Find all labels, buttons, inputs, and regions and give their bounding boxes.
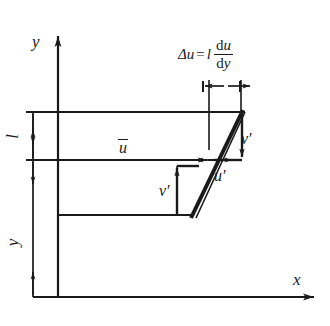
velocity-profile-group — [191, 110, 245, 218]
prime-glyph-2: ′ — [166, 182, 170, 199]
formula-delta: Δ — [178, 46, 187, 63]
velocity-profile-line-thin — [196, 112, 245, 218]
u-prime-symbol: u — [214, 167, 222, 184]
formula-lhs-var: u — [187, 46, 195, 63]
x-axis-label: x — [293, 271, 301, 288]
v-prime-upper-label: v′ — [241, 131, 252, 147]
formula-den-var: y — [224, 55, 231, 71]
profile-lines-group — [33, 112, 245, 215]
axis-group — [33, 36, 314, 297]
formula-numerator: du — [214, 38, 233, 55]
velocity-profile-line — [191, 110, 243, 218]
formula-mixing-length: l — [207, 46, 211, 63]
dimension-group — [26, 112, 46, 297]
u-prime-label: u′ — [214, 168, 226, 184]
formula-denominator: dy — [214, 55, 232, 72]
formula-equals: = — [196, 46, 204, 63]
mean-velocity-symbol: u — [119, 140, 127, 156]
y-axis-label: y — [32, 33, 40, 50]
formula-fraction: du dy — [214, 38, 233, 72]
prime-glyph-1: ′ — [248, 130, 252, 147]
diagram-svg — [0, 0, 330, 326]
prime-glyph-3: ′ — [222, 167, 226, 184]
formula-num-var: u — [223, 37, 231, 53]
upper-fluctuation-group — [196, 114, 242, 160]
formula-delta-u: Δu = l du dy — [178, 38, 233, 72]
wall-distance-label: y — [4, 239, 21, 247]
v-prime-lower-label: v′ — [159, 183, 170, 199]
formula-den-d: d — [216, 55, 224, 71]
mixing-length-label: l — [4, 134, 21, 139]
mean-velocity-label: u — [119, 140, 127, 156]
figure-canvas: y x l y u v′ v′ u′ Δu = l du dy — [0, 0, 330, 326]
